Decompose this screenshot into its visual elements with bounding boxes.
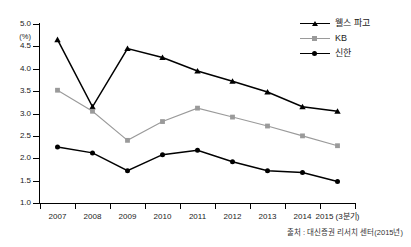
series-3	[55, 145, 340, 184]
triangle-icon	[312, 21, 318, 26]
y-axis-tick	[33, 136, 39, 137]
y-axis-tick	[33, 91, 39, 92]
data-point-square	[265, 124, 270, 129]
y-axis-tick-label: 5.0	[5, 20, 31, 28]
legend-label-kb: KB	[335, 33, 347, 44]
legend-label-shinhan: 신한	[335, 48, 351, 59]
y-axis-tick-label: 2.0	[5, 154, 31, 162]
data-point-circle	[55, 145, 60, 150]
x-axis-tick	[215, 204, 216, 209]
data-point-triangle	[89, 104, 95, 110]
y-axis-tick	[33, 24, 39, 25]
x-axis-tick	[110, 204, 111, 209]
x-axis-tick	[40, 204, 41, 209]
x-axis-tick	[285, 204, 286, 209]
data-point-square	[160, 119, 165, 124]
x-axis-tick	[250, 204, 251, 209]
data-point-circle	[230, 159, 235, 164]
source-note: 출처 : 대신증권 리서치 센터(2015년)	[287, 228, 403, 237]
y-axis-tick-label: 2.5	[5, 132, 31, 140]
data-point-square	[300, 133, 305, 138]
data-point-circle	[125, 168, 130, 173]
x-axis-tick-label: 2008	[73, 212, 113, 221]
x-axis-tick-label: 2009	[108, 212, 148, 221]
square-icon	[312, 36, 317, 41]
y-axis-tick	[33, 46, 39, 47]
x-axis-line	[39, 203, 356, 204]
x-axis-tick-label: 2013	[248, 212, 288, 221]
data-point-circle	[300, 170, 305, 175]
series-line	[58, 40, 338, 112]
legend-item-wells-fargo[interactable]: 웰스 파고	[300, 16, 408, 31]
legend-item-shinhan[interactable]: 신한	[300, 46, 408, 61]
y-axis-tick-label: 1.0	[5, 199, 31, 207]
y-axis-tick	[33, 69, 39, 70]
data-point-triangle	[54, 37, 60, 43]
data-point-square	[55, 88, 60, 93]
circle-icon	[312, 51, 317, 56]
data-point-square	[195, 106, 200, 111]
chart-legend: 웰스 파고 KB 신한	[300, 16, 408, 61]
legend-item-kb[interactable]: KB	[300, 31, 408, 46]
legend-label-wells-fargo: 웰스 파고	[335, 18, 370, 29]
y-axis-tick	[33, 203, 39, 204]
legend-marker-kb	[300, 33, 330, 44]
data-point-square	[125, 138, 130, 143]
y-axis-tick-label: 3.0	[5, 110, 31, 118]
y-axis-unit-label: (%)	[5, 33, 31, 41]
x-axis-tick-label: 2007	[38, 212, 78, 221]
data-point-square	[230, 115, 235, 120]
x-axis-tick-label: 2015 (3분기)	[303, 212, 373, 221]
series-1	[54, 37, 340, 114]
x-axis-tick-label: 2011	[178, 212, 218, 221]
y-axis-tick	[33, 158, 39, 159]
y-axis-tick-label: 4.0	[5, 65, 31, 73]
series-line	[58, 90, 338, 145]
data-point-circle	[335, 179, 340, 184]
y-axis-tick	[33, 181, 39, 182]
x-axis-tick	[355, 204, 356, 209]
data-point-square	[335, 143, 340, 148]
x-axis-tick	[320, 204, 321, 209]
x-axis-tick	[145, 204, 146, 209]
y-axis-tick	[33, 114, 39, 115]
x-axis-tick	[180, 204, 181, 209]
data-point-triangle	[124, 46, 130, 52]
chart-figure: 5.04.54.03.53.02.52.01.51.0 (%) 웰스 파고 KB	[0, 0, 411, 247]
data-point-circle	[160, 152, 165, 157]
data-point-square	[90, 109, 95, 114]
x-axis-tick-label: 2012	[213, 212, 253, 221]
data-point-circle	[90, 150, 95, 155]
data-point-circle	[265, 168, 270, 173]
y-axis-tick-label: 4.5	[5, 42, 31, 50]
legend-marker-wells-fargo	[300, 18, 330, 29]
clipped-caption	[62, 0, 232, 7]
legend-marker-shinhan	[300, 48, 330, 59]
y-axis-tick-label: 3.5	[5, 87, 31, 95]
y-axis-tick-label: 1.5	[5, 177, 31, 185]
x-axis-tick	[75, 204, 76, 209]
data-point-circle	[195, 148, 200, 153]
x-axis-tick-label: 2010	[143, 212, 183, 221]
